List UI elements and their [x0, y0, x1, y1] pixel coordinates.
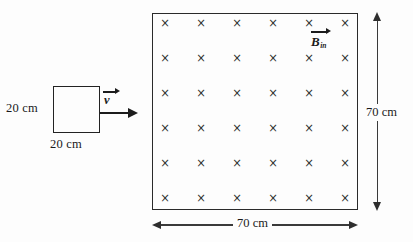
- vector-arrowhead-icon: [326, 28, 331, 34]
- conducting-loop-square: [53, 86, 100, 133]
- b-field-subscript: in: [320, 41, 326, 50]
- magnetic-field-region: [152, 13, 358, 210]
- dimension-label-right: 70 cm: [364, 104, 399, 121]
- dimension-arrowhead-left-icon: [152, 221, 161, 229]
- loop-width-label: 20 cm: [50, 137, 82, 152]
- dimension-label-bottom: 70 cm: [233, 216, 272, 231]
- loop-height-label: 20 cm: [6, 101, 38, 116]
- velocity-vector-label: v: [104, 92, 110, 107]
- velocity-arrow-head-icon: [128, 108, 138, 118]
- velocity-arrow-shaft: [100, 112, 129, 114]
- dimension-arrowhead-up-icon: [373, 12, 381, 21]
- vector-arrowhead-icon: [115, 88, 120, 94]
- velocity-vector-overbar: v: [104, 92, 110, 107]
- b-field-symbol: B: [311, 34, 320, 49]
- physics-diagram-canvas: 20 cm 20 cm v ××××××××××××××××××××××××××…: [0, 0, 413, 242]
- velocity-symbol: v: [104, 93, 110, 107]
- dimension-arrowhead-right-icon: [349, 221, 358, 229]
- b-field-vector-overbar: B: [311, 33, 320, 48]
- magnetic-field-label: B in: [311, 33, 326, 48]
- dimension-arrowhead-down-icon: [373, 202, 381, 211]
